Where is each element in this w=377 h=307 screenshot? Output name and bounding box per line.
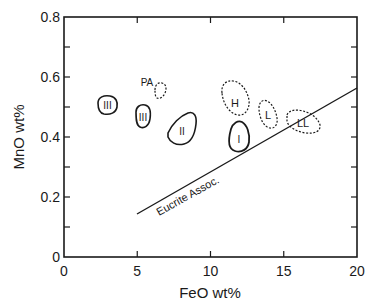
y-tick-label: 0.4 [41, 129, 61, 145]
field-label: L [265, 109, 271, 121]
y-tick-label: 0.8 [41, 9, 61, 25]
y-axis-label: MnO wt% [10, 104, 27, 169]
field-III-left: III [98, 96, 117, 114]
plot-frame [64, 17, 357, 257]
x-tick-labels: 0 5 10 15 20 [60, 263, 365, 279]
x-axis-ticks [137, 17, 284, 257]
y-tick-label: 0 [52, 249, 60, 265]
y-tick-label: 0.6 [41, 69, 61, 85]
feo-mno-chart: 0 5 10 15 20 0 0.2 0.4 0.6 0.8 FeO wt% M… [0, 0, 377, 307]
field-LL: LL [287, 110, 320, 133]
field-label: III [139, 112, 147, 123]
y-tick-label: 0.2 [41, 189, 61, 205]
field-label: III [103, 100, 111, 111]
field-label: H [231, 97, 239, 109]
field-L: L [259, 100, 277, 128]
field-I: I [229, 121, 249, 151]
eucrite-assoc-label: Eucrite Assoc. [154, 173, 221, 217]
field-label: LL [297, 117, 309, 129]
field-H: H [222, 81, 249, 115]
x-tick-label: 20 [349, 263, 365, 279]
field-label: PA [141, 77, 154, 88]
y-axis-ticks [64, 47, 357, 227]
x-tick-label: 10 [203, 263, 219, 279]
y-tick-labels: 0 0.2 0.4 0.6 0.8 [41, 9, 61, 265]
x-tick-label: 15 [276, 263, 292, 279]
field-III-middle: III [136, 105, 150, 128]
x-tick-label: 5 [133, 263, 141, 279]
eucrite-assoc-line [137, 88, 357, 214]
field-PA: PA [141, 77, 166, 98]
field-label: II [179, 126, 185, 137]
field-II: II [168, 113, 196, 145]
x-tick-label: 0 [60, 263, 68, 279]
field-label: I [238, 134, 241, 145]
x-axis-label: FeO wt% [179, 284, 241, 301]
